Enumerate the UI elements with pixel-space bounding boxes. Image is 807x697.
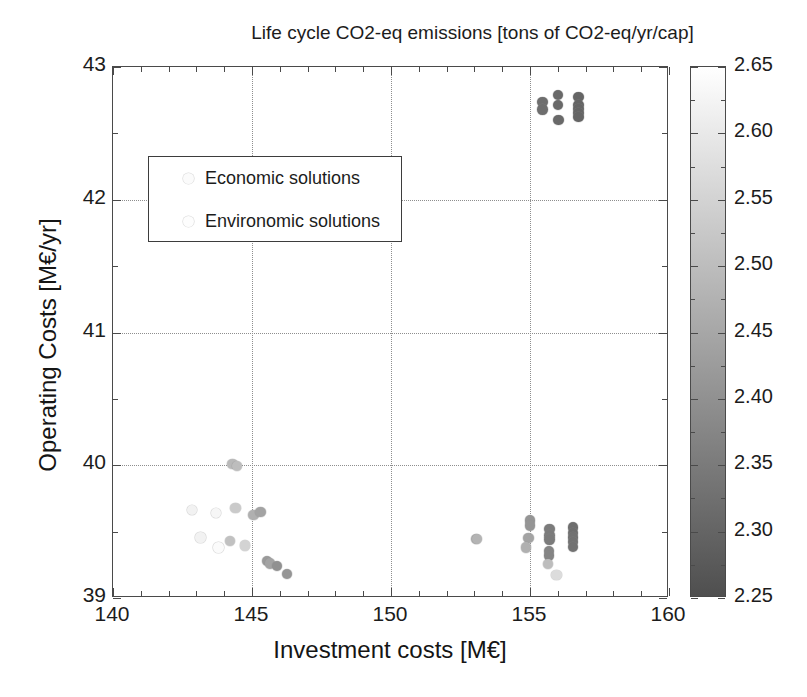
x-axis-tick-top xyxy=(474,67,475,72)
x-axis-tick-top xyxy=(419,67,420,72)
data-point xyxy=(187,505,197,515)
x-axis-tick-top xyxy=(613,67,614,72)
colorbar-tick xyxy=(691,67,698,68)
colorbar-tick-label: 2.65 xyxy=(734,53,773,76)
colorbar-tick xyxy=(691,366,695,367)
data-point xyxy=(232,461,242,471)
colorbar-tick-label: 2.25 xyxy=(734,584,773,607)
gridline-horizontal xyxy=(113,465,667,466)
colorbar-tick-right xyxy=(718,67,725,68)
y-axis-tick xyxy=(113,399,118,400)
data-point xyxy=(544,534,554,544)
colorbar-tick xyxy=(691,598,698,599)
y-axis-tick xyxy=(113,465,121,466)
x-axis-tick-top xyxy=(502,67,503,72)
colorbar-tick xyxy=(691,100,695,101)
x-axis-tick-top xyxy=(224,67,225,72)
data-point xyxy=(553,115,563,125)
x-axis-tick-top xyxy=(363,67,364,72)
colorbar-tick-right xyxy=(721,498,725,499)
x-axis-tick xyxy=(419,591,420,596)
x-axis-tick-top xyxy=(280,67,281,72)
colorbar-tick-right xyxy=(718,532,725,533)
x-axis-tick-top xyxy=(669,67,670,75)
colorbar-tick xyxy=(691,399,698,400)
x-axis-tick xyxy=(586,591,587,596)
data-point xyxy=(230,503,240,513)
colorbar-tick-right xyxy=(721,366,725,367)
x-axis-tick xyxy=(363,591,364,596)
y-axis-title: Operating Costs [M€/yr] xyxy=(34,75,62,615)
y-axis-tick-right xyxy=(662,133,667,134)
data-point xyxy=(521,542,531,552)
y-axis-tick-right xyxy=(659,67,667,68)
x-axis-tick xyxy=(447,591,448,596)
y-axis-tick-right xyxy=(662,532,667,533)
x-axis-tick xyxy=(280,591,281,596)
colorbar-tick xyxy=(691,432,695,433)
colorbar-tick-right xyxy=(721,432,725,433)
colorbar-gradient xyxy=(691,67,725,596)
data-point xyxy=(537,104,547,114)
x-axis-tick xyxy=(641,591,642,596)
data-point xyxy=(213,542,223,552)
colorbar-tick-right xyxy=(721,167,725,168)
colorbar-tick xyxy=(691,465,698,466)
colorbar-tick-right xyxy=(721,565,725,566)
colorbar-tick-right xyxy=(718,133,725,134)
data-point xyxy=(211,508,221,518)
colorbar xyxy=(690,66,726,597)
data-point xyxy=(543,559,553,569)
x-tick-label: 145 xyxy=(211,602,291,626)
colorbar-tick-right xyxy=(721,233,725,234)
data-point xyxy=(195,532,205,542)
x-axis-tick xyxy=(308,591,309,596)
colorbar-tick-label: 2.60 xyxy=(734,119,773,142)
legend-label: Economic solutions xyxy=(205,168,360,189)
colorbar-tick xyxy=(691,532,698,533)
x-axis-tick-top xyxy=(113,67,114,75)
scatter-chart-figure: Life cycle CO2-eq emissions [tons of CO2… xyxy=(0,0,807,697)
x-axis-tick xyxy=(558,591,559,596)
colorbar-tick xyxy=(691,167,695,168)
x-axis-title: Investment costs [M€] xyxy=(112,636,668,664)
colorbar-tick-right xyxy=(718,399,725,400)
colorbar-tick-label: 2.30 xyxy=(734,518,773,541)
x-tick-label: 150 xyxy=(350,602,430,626)
data-point xyxy=(472,534,482,544)
legend-entry: Environomic solutions xyxy=(149,200,401,243)
colorbar-tick-right xyxy=(721,100,725,101)
colorbar-tick-label: 2.35 xyxy=(734,451,773,474)
x-axis-tick-top xyxy=(558,67,559,72)
colorbar-tick-label: 2.50 xyxy=(734,252,773,275)
chart-legend: Economic solutionsEnvironomic solutions xyxy=(148,156,402,242)
x-axis-tick-top xyxy=(308,67,309,72)
x-axis-tick xyxy=(474,591,475,596)
colorbar-tick xyxy=(691,200,698,201)
data-point xyxy=(240,540,250,550)
colorbar-tick-right xyxy=(721,299,725,300)
colorbar-tick xyxy=(691,333,698,334)
data-point xyxy=(568,542,578,552)
gridline-vertical xyxy=(391,67,392,596)
data-point xyxy=(525,520,535,530)
x-axis-tick xyxy=(196,591,197,596)
colorbar-tick-label: 2.40 xyxy=(734,385,773,408)
colorbar-tick xyxy=(691,266,698,267)
chart-title: Life cycle CO2-eq emissions [tons of CO2… xyxy=(150,22,795,44)
legend-label: Environomic solutions xyxy=(205,211,380,232)
x-axis-tick xyxy=(224,591,225,596)
colorbar-tick-label: 2.45 xyxy=(734,319,773,342)
legend-marker-2 xyxy=(183,216,194,227)
data-point xyxy=(553,100,563,110)
y-axis-tick xyxy=(113,598,121,599)
x-axis-tick-top xyxy=(586,67,587,72)
y-axis-tick xyxy=(113,67,121,68)
colorbar-tick xyxy=(691,233,695,234)
x-axis-tick xyxy=(502,591,503,596)
x-tick-label: 155 xyxy=(489,602,569,626)
x-axis-tick-top xyxy=(530,67,531,75)
x-tick-label: 160 xyxy=(628,602,708,626)
y-axis-tick-right xyxy=(659,333,667,334)
x-axis-tick-top xyxy=(141,67,142,72)
